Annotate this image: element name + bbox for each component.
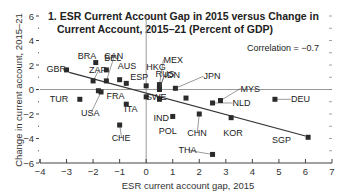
- point-label: ZAF: [89, 65, 107, 75]
- data-point-marker: [124, 81, 129, 86]
- point-label: USA: [81, 108, 100, 118]
- point-label: JPN: [203, 71, 220, 81]
- point-label: THA: [179, 145, 197, 155]
- y-tick-label: 0: [29, 84, 34, 95]
- x-tick-label: −4: [35, 166, 46, 177]
- plot-area: −4−3−2−101234567−6−4−20246GBRBRABELZAFCA…: [23, 11, 334, 178]
- point-label: CHN: [187, 128, 207, 138]
- data-point-marker: [229, 115, 234, 120]
- data-point-marker: [210, 152, 215, 157]
- data-point-marker: [64, 67, 69, 72]
- data-point-marker: [124, 102, 129, 107]
- x-tick-label: 3: [223, 166, 228, 177]
- point-label: MYS: [241, 84, 261, 94]
- point-label: AUS: [118, 61, 137, 71]
- data-point-marker: [170, 114, 175, 119]
- point-label: IND: [153, 113, 169, 123]
- x-tick-label: 4: [250, 166, 255, 177]
- x-tick-label: −2: [88, 166, 99, 177]
- x-tick-label: 7: [329, 166, 334, 177]
- data-point-marker: [104, 78, 109, 83]
- title-line-1: 1. ESR Current Account Gap in 2015 versu…: [48, 10, 319, 22]
- data-point-marker: [184, 96, 189, 101]
- point-label: POL: [159, 126, 177, 136]
- x-tick-label: 1: [170, 166, 175, 177]
- data-point-marker: [117, 123, 122, 128]
- x-axis-label: ESR current account gap, 2015: [122, 180, 255, 191]
- y-tick-label: −6: [23, 158, 34, 169]
- y-tick-label: 2: [29, 60, 34, 71]
- y-tick-label: −2: [23, 109, 34, 120]
- data-point-marker: [77, 97, 82, 102]
- point-label: CHE: [112, 133, 131, 143]
- data-point-marker: [99, 89, 104, 94]
- title-line-2: Current Account, 2015–21 (Percent of GDP…: [57, 23, 273, 35]
- correlation-annotation: Correlation = −0.7: [247, 43, 319, 53]
- x-tick-label: 5: [276, 166, 281, 177]
- data-point-marker: [306, 135, 311, 140]
- point-label: GBR: [47, 64, 67, 74]
- x-tick-label: −3: [61, 166, 72, 177]
- data-point-marker: [210, 100, 215, 105]
- scatter-chart: 1. ESR Current Account Gap in 2015 versu…: [0, 0, 351, 195]
- point-label: NLD: [233, 98, 252, 108]
- x-tick-label: −1: [114, 166, 125, 177]
- data-point-marker: [218, 98, 223, 103]
- y-tick-label: 6: [29, 11, 34, 22]
- data-point-marker: [91, 78, 96, 83]
- data-point-marker: [272, 97, 277, 102]
- point-label: CAN: [104, 51, 123, 61]
- x-tick-label: 0: [144, 166, 149, 177]
- point-label: BRA: [78, 51, 97, 61]
- data-point-marker: [117, 77, 122, 82]
- point-label: TUR: [50, 94, 69, 104]
- point-label: IDN: [164, 70, 180, 80]
- chart-title: 1. ESR Current Account Gap in 2015 versu…: [48, 10, 319, 35]
- point-label: MEX: [163, 55, 183, 65]
- x-tick-label: 2: [197, 166, 202, 177]
- data-point-marker: [144, 83, 149, 88]
- y-tick-label: 4: [29, 35, 34, 46]
- x-tick-label: 6: [303, 166, 308, 177]
- point-label: FRA: [106, 91, 124, 101]
- y-tick-label: −4: [23, 133, 34, 144]
- point-label: KOR: [223, 128, 243, 138]
- point-label: SWE: [146, 92, 167, 102]
- point-label: SGP: [272, 135, 291, 145]
- point-label: DEU: [291, 94, 310, 104]
- data-point-marker: [197, 112, 202, 117]
- data-point-marker: [173, 86, 178, 91]
- point-label: ESP: [130, 72, 148, 82]
